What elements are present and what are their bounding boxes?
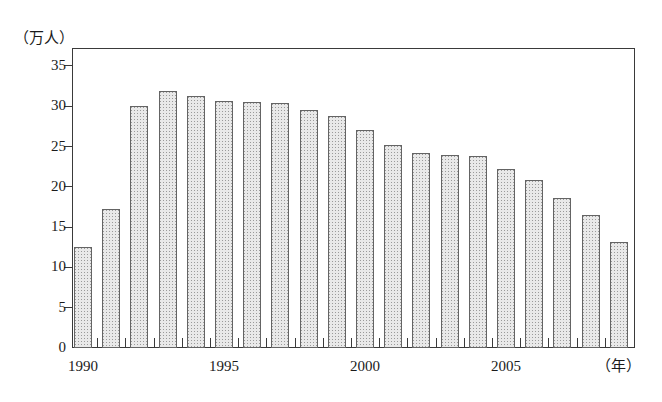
y-tick-label: 5 (32, 300, 66, 315)
x-tick (379, 338, 380, 348)
bar-2001 (384, 145, 402, 348)
x-tick (154, 338, 155, 348)
bar-2002 (412, 153, 430, 348)
y-tick-label: 0 (32, 340, 66, 355)
x-tick (407, 338, 408, 348)
x-tick-label-2000: 2000 (335, 358, 395, 374)
y-tick-label: 35 (32, 58, 66, 73)
x-tick (210, 338, 211, 348)
x-tick (577, 338, 578, 348)
bar-1996 (243, 102, 261, 348)
bar-1992 (130, 106, 148, 348)
chart-canvas: （万人） 05101520253035 1990199520002005 （年） (0, 0, 662, 402)
bar-1995 (215, 101, 233, 348)
x-tick (605, 338, 606, 348)
bar-1994 (187, 96, 205, 348)
bar-2006 (525, 180, 543, 348)
bar-1998 (300, 110, 318, 348)
x-tick-label-1995: 1995 (194, 358, 254, 374)
bar-2008 (582, 215, 600, 348)
x-tick (520, 338, 521, 348)
x-axis-unit-label: （年） (596, 358, 641, 374)
bar-2007 (553, 198, 571, 348)
bar-2005 (497, 169, 515, 348)
x-tick (492, 338, 493, 348)
bar-1993 (159, 91, 177, 348)
bar-1991 (102, 209, 120, 348)
x-tick-label-2005: 2005 (476, 358, 536, 374)
x-tick (125, 338, 126, 348)
x-tick (238, 338, 239, 348)
x-tick-label-1990: 1990 (53, 358, 113, 374)
x-tick (464, 338, 465, 348)
bar-2004 (469, 156, 487, 348)
bar-1999 (328, 116, 346, 348)
y-axis-unit-label: （万人） (14, 26, 74, 47)
bar-2009 (610, 242, 628, 348)
x-tick (436, 338, 437, 348)
bar-series (72, 48, 635, 348)
x-tick (266, 338, 267, 348)
y-tick-label: 30 (32, 98, 66, 113)
bar-1997 (271, 103, 289, 348)
x-tick (295, 338, 296, 348)
x-tick (351, 338, 352, 348)
y-tick-label: 20 (32, 179, 66, 194)
x-tick (548, 338, 549, 348)
bar-2000 (356, 130, 374, 348)
y-tick-label: 15 (32, 219, 66, 234)
bar-2003 (441, 155, 459, 348)
y-tick-label: 10 (32, 259, 66, 274)
x-tick (323, 338, 324, 348)
x-tick (97, 338, 98, 348)
bar-1990 (74, 247, 92, 348)
y-tick-label: 25 (32, 139, 66, 154)
x-tick (182, 338, 183, 348)
